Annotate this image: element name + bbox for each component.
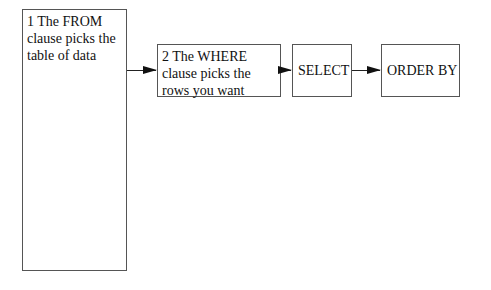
orderby-box: ORDER BY: [381, 44, 460, 97]
arrow-select-to-orderby: [352, 70, 380, 71]
where-clause-label: 2 The WHERE clause picks the rows you wa…: [162, 49, 251, 98]
from-clause-label: 1 The FROM clause picks the table of dat…: [27, 14, 116, 63]
arrow-where-to-select: [281, 70, 291, 71]
arrow-from-to-where: [127, 70, 156, 71]
orderby-label: ORDER BY: [387, 62, 457, 79]
from-clause-box: 1 The FROM clause picks the table of dat…: [22, 9, 127, 271]
select-label: SELECT: [298, 62, 349, 79]
select-box: SELECT: [292, 44, 352, 97]
where-clause-box: 2 The WHERE clause picks the rows you wa…: [157, 44, 281, 97]
